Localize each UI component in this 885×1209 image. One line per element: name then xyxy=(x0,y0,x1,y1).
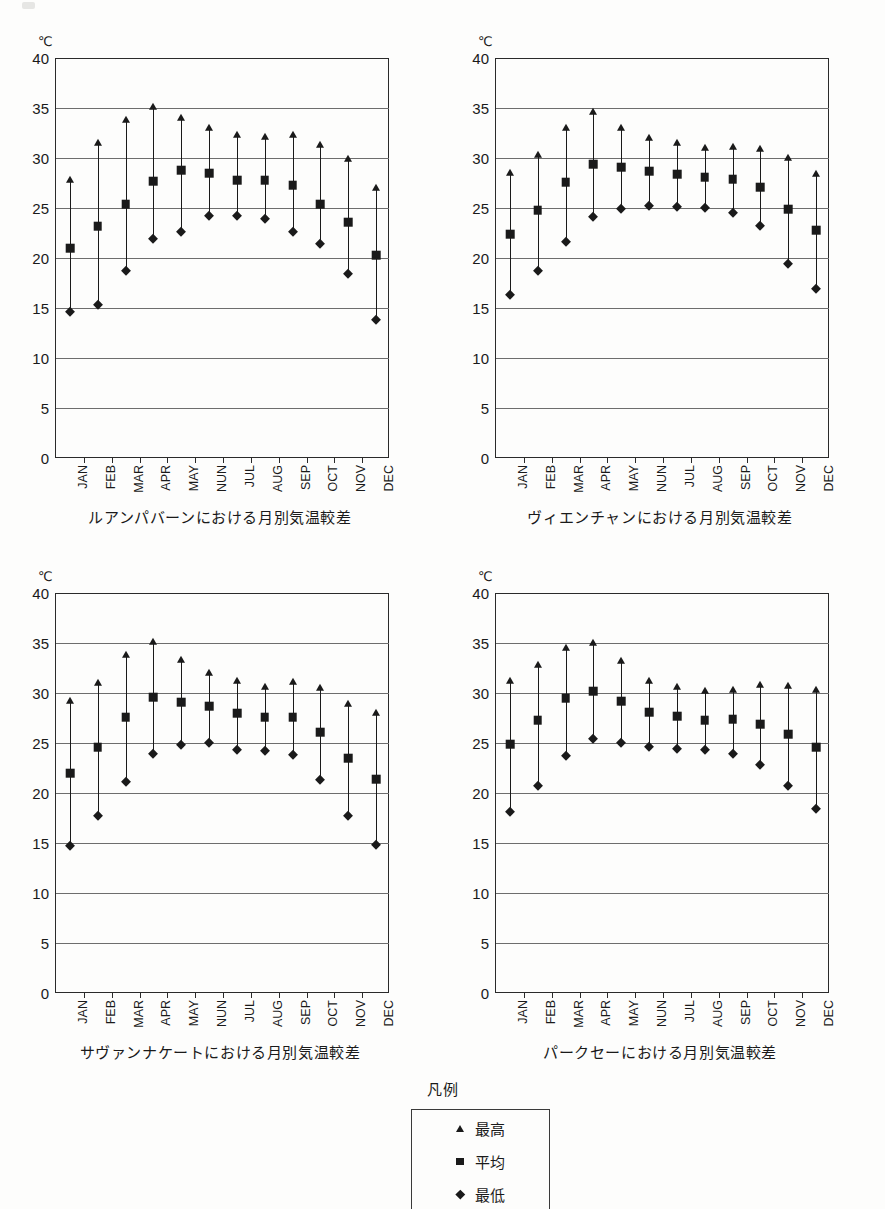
y-axis-unit-label: ℃ xyxy=(478,34,492,49)
data-column xyxy=(98,593,99,992)
x-axis-month-label: JAN xyxy=(76,1000,90,1024)
figure-page: ℃0510152025303540JANFEBMARAPRMAYNUNJULAU… xyxy=(0,0,885,1209)
min-marker xyxy=(343,269,353,279)
x-axis-month-label: NUN xyxy=(655,465,669,492)
data-column xyxy=(677,593,678,992)
mean-marker xyxy=(177,166,186,175)
max-marker xyxy=(66,697,74,704)
max-marker xyxy=(756,681,764,688)
data-column xyxy=(621,593,622,992)
x-axis-tick xyxy=(663,457,664,463)
y-axis-tick-label: 0 xyxy=(481,985,489,1002)
chart-caption: ルアンパバーンにおける月別気温較差 xyxy=(0,506,440,527)
max-marker xyxy=(261,683,269,690)
min-marker xyxy=(505,290,515,300)
mean-marker xyxy=(784,730,793,739)
min-marker xyxy=(811,804,821,814)
data-column xyxy=(649,58,650,457)
gridline xyxy=(496,943,829,944)
max-marker xyxy=(94,679,102,686)
min-marker xyxy=(148,234,158,244)
max-marker xyxy=(589,639,597,646)
data-column xyxy=(788,593,789,992)
x-axis-tick xyxy=(802,457,803,463)
plot-area: 0510152025303540JANFEBMARAPRMAYNUNJULAUG… xyxy=(55,593,389,993)
mean-marker xyxy=(233,176,242,185)
max-marker xyxy=(261,133,269,140)
min-marker xyxy=(616,204,626,214)
x-axis-month-label: DEC xyxy=(382,1000,396,1026)
y-axis-tick-label: 0 xyxy=(41,450,49,467)
y-axis-tick-label: 25 xyxy=(472,735,489,752)
mean-marker xyxy=(316,200,325,209)
x-axis-month-label: DEC xyxy=(382,465,396,491)
mean-marker xyxy=(617,697,626,706)
data-column xyxy=(348,58,349,457)
min-marker xyxy=(343,811,353,821)
data-column xyxy=(237,593,238,992)
y-axis-tick-label: 0 xyxy=(41,985,49,1002)
x-axis-tick xyxy=(747,457,748,463)
min-marker xyxy=(560,237,570,247)
mean-marker xyxy=(756,183,765,192)
x-axis-tick xyxy=(84,457,85,463)
data-column xyxy=(209,58,210,457)
min-marker xyxy=(260,214,270,224)
y-axis-tick-label: 25 xyxy=(32,200,49,217)
min-marker xyxy=(315,775,325,785)
data-column xyxy=(70,593,71,992)
legend-item-label: 平均 xyxy=(475,1151,505,1172)
x-axis-month-label: MAY xyxy=(627,1000,641,1026)
x-axis-tick xyxy=(691,992,692,998)
min-marker xyxy=(560,751,570,761)
mean-marker xyxy=(506,740,515,749)
plot-frame: 0510152025303540JANFEBMARAPRMAYNUNJULAUG… xyxy=(55,58,389,458)
data-column xyxy=(566,593,567,992)
min-marker xyxy=(287,227,297,237)
x-axis-tick xyxy=(223,457,224,463)
max-marker xyxy=(344,155,352,162)
x-axis-month-label: MAY xyxy=(627,465,641,491)
max-marker xyxy=(673,683,681,690)
min-marker xyxy=(672,202,682,212)
min-marker xyxy=(700,745,710,755)
max-marker xyxy=(617,124,625,131)
plot-top-border xyxy=(56,58,389,59)
mean-marker xyxy=(756,720,765,729)
mean-marker xyxy=(288,713,297,722)
max-marker xyxy=(812,170,820,177)
data-column xyxy=(209,593,210,992)
data-column xyxy=(153,593,154,992)
plot-frame: 0510152025303540JANFEBMARAPRMAYNUNJULAUG… xyxy=(55,593,389,993)
y-axis-tick-label: 25 xyxy=(32,735,49,752)
min-marker xyxy=(644,201,654,211)
mean-marker xyxy=(260,713,269,722)
range-line xyxy=(320,145,321,244)
x-axis-tick xyxy=(362,992,363,998)
plot-frame: 0510152025303540JANFEBMARAPRMAYNUNJULAUG… xyxy=(495,58,829,458)
mean-marker xyxy=(645,167,654,176)
x-axis-tick xyxy=(747,992,748,998)
data-column xyxy=(237,58,238,457)
gridline xyxy=(496,843,829,844)
plot-frame: 0510152025303540JANFEBMARAPRMAYNUNJULAUG… xyxy=(495,593,829,993)
chart-caption: サヴァンナケートにおける月別気温較差 xyxy=(0,1041,440,1062)
max-marker xyxy=(177,114,185,121)
legend: 凡例 最高 平均 最低 xyxy=(0,1078,885,1209)
max-marker xyxy=(122,116,130,123)
x-axis-tick xyxy=(140,457,141,463)
gridline xyxy=(56,893,389,894)
data-column xyxy=(733,593,734,992)
x-axis-month-label: FEB xyxy=(104,465,118,489)
x-axis-month-label: JAN xyxy=(76,465,90,489)
legend-item-min: 最低 xyxy=(412,1180,549,1209)
x-axis-month-label: APR xyxy=(159,465,173,491)
max-marker xyxy=(177,656,185,663)
mean-marker xyxy=(205,702,214,711)
range-line xyxy=(181,118,182,232)
max-marker xyxy=(205,124,213,131)
x-axis-tick xyxy=(195,457,196,463)
x-axis-month-label: AUG xyxy=(271,465,285,492)
x-axis-month-label: NOV xyxy=(794,465,808,492)
x-axis-tick xyxy=(580,457,581,463)
